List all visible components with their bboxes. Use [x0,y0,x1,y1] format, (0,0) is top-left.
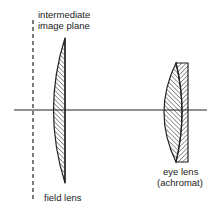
label-image-plane-2: image plane [38,20,90,31]
label-eye-lens-2: (achromat) [157,177,203,188]
eyepiece-diagram: intermediate image plane field lens eye … [0,0,219,214]
label-eye-lens-1: eye lens [163,166,199,177]
label-image-plane-1: intermediate [38,9,90,20]
label-field-lens: field lens [44,192,82,203]
